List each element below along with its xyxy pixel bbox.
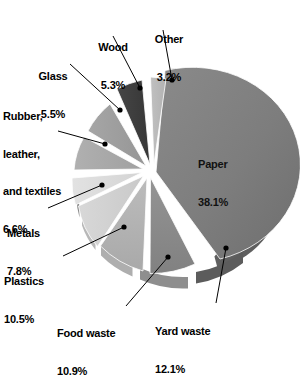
pie-label-other: Other 3.2% [143,8,195,108]
leader-dot-metals [99,182,104,187]
pie-label-rubber-line2: leather, [3,148,87,161]
leader-dot-food [165,254,170,259]
pie-label-food-waste: Food waste 10.9% [57,302,131,379]
pie-label-other-name: Other [143,33,195,46]
pie-label-food-waste-name: Food waste [57,327,131,340]
pie-label-food-waste-value: 10.9% [57,365,131,378]
pie-label-rubber-line1: Rubber, [3,110,87,123]
pie-label-yard-waste-name: Yard waste [155,325,231,338]
leader-dot-rubber [102,141,107,146]
pie-label-paper-name: Paper [198,158,258,171]
pie-label-rubber-line3: and textiles [3,185,87,198]
pie-label-other-value: 3.2% [143,71,195,84]
leader-dot-yard [223,245,228,250]
pie-label-wood-value: 5.3% [84,79,142,92]
pie-label-yard-waste-value: 12.1% [155,363,231,376]
pie-label-wood-name: Wood [84,41,142,54]
leader-dot-plastics [121,224,126,229]
pie-label-plastics-name: Plastics [4,275,66,288]
pie-label-paper-value: 38.1% [198,196,258,209]
pie-label-paper: Paper 38.1% [198,133,258,233]
pie-label-yard-waste: Yard waste 12.1% [155,300,231,379]
pie-label-wood: Wood 5.3% [84,16,142,116]
pie-label-glass-name: Glass [27,70,79,83]
pie-label-metals-name: Metals [7,227,63,240]
